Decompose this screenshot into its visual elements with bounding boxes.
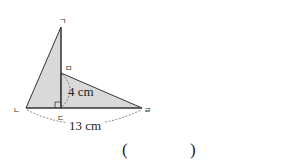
answer-open-paren: (: [122, 140, 128, 159]
vertex-label-g: ㄱ: [59, 17, 66, 26]
vertex-label-n: ㄴ: [13, 106, 20, 115]
triangle-left: [26, 27, 61, 108]
answer-close-paren: ): [190, 140, 196, 159]
vertex-label-d: ㄷ: [57, 114, 64, 123]
vertex-label-r: ㄹ: [144, 106, 151, 115]
vertex-label-m: ㅁ: [65, 64, 72, 73]
height-measure: 4 cm: [68, 84, 94, 99]
answer-blank[interactable]: [132, 140, 186, 158]
base-measure: 13 cm: [69, 118, 101, 133]
